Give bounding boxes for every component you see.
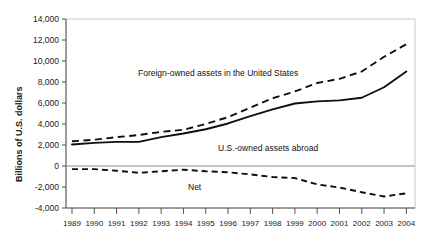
chart-plot: 14,00012,00010,0008,0006,0004,0002,0000-…: [0, 0, 422, 246]
x-tick-label: 1995: [197, 219, 215, 228]
y-tick-label: 6,000: [38, 98, 60, 108]
y-tick-label: -4,000: [35, 203, 59, 213]
x-tick-label: 1990: [85, 219, 103, 228]
x-tick-label: 2004: [397, 219, 415, 228]
x-axis-ticks: 1989199019911992199319941995199619971998…: [63, 208, 416, 228]
y-axis-ticks: 14,00012,00010,0008,0006,0004,0002,0000-…: [33, 14, 415, 213]
y-tick-label: 4,000: [38, 119, 60, 129]
plot-frame: [66, 19, 415, 208]
x-tick-label: 1997: [241, 219, 259, 228]
x-tick-label: 2002: [353, 219, 371, 228]
x-tick-label: 2001: [331, 219, 349, 228]
x-tick-label: 1993: [152, 219, 170, 228]
y-tick-label: 2,000: [38, 140, 60, 150]
y-tick-label: 12,000: [33, 35, 59, 45]
series-annotations: Foreign-owned assets in the United State…: [138, 68, 318, 192]
x-tick-label: 1999: [286, 219, 304, 228]
x-tick-label: 1989: [63, 219, 81, 228]
x-tick-label: 1994: [175, 219, 193, 228]
annotation-foreign-owned-assets: Foreign-owned assets in the United State…: [138, 68, 298, 78]
series-line: [72, 169, 406, 196]
series-line: [72, 44, 406, 141]
y-tick-label: 0: [54, 161, 59, 171]
x-tick-label: 2000: [308, 219, 326, 228]
x-tick-label: 1991: [108, 219, 126, 228]
y-tick-label: 10,000: [33, 56, 59, 66]
x-tick-label: 1992: [130, 219, 148, 228]
y-tick-label: 14,000: [33, 14, 59, 24]
annotation-net: Net: [188, 182, 202, 192]
x-tick-label: 2003: [375, 219, 393, 228]
annotation-us-owned-assets: U.S.-owned assets abroad: [218, 143, 318, 153]
y-tick-label: 8,000: [38, 77, 60, 87]
chart-container: Billions of U.S. dollars 14,00012,00010,…: [0, 0, 422, 246]
x-tick-label: 1998: [264, 219, 282, 228]
series-line: [72, 72, 406, 145]
x-tick-label: 1996: [219, 219, 237, 228]
y-tick-label: -2,000: [35, 182, 59, 192]
